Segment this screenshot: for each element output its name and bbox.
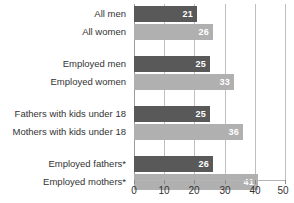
- x-axis-tick: [164, 180, 165, 184]
- category-label: All men: [94, 6, 126, 22]
- bar-employed-fathers: 26: [134, 156, 213, 172]
- plot-area: 21 26 25 33 25: [134, 4, 285, 180]
- x-axis-tick-label: 40: [249, 186, 260, 196]
- x-axis-tick-label: 10: [158, 186, 169, 196]
- category-label: Employed men: [63, 56, 126, 72]
- x-axis-tick-label: 50: [277, 186, 288, 196]
- x-axis-tick: [134, 180, 135, 184]
- bar-fathers-with-kids-under-18: 25: [134, 106, 210, 122]
- bar-value-label: 25: [196, 110, 206, 119]
- category-label: Employed mothers*: [43, 174, 126, 190]
- bar-rows: 21 26 25 33 25: [134, 4, 285, 176]
- gridline-50: [285, 4, 286, 180]
- bar-value-label: 26: [199, 160, 209, 169]
- x-axis-line: [134, 180, 285, 181]
- category-axis-labels: All men All women Employed men Employed …: [0, 4, 130, 180]
- bar-value-label: 36: [229, 128, 239, 137]
- bar-value-label: 26: [199, 28, 209, 37]
- bar-value-label: 21: [183, 10, 193, 19]
- bar-value-label: 25: [196, 60, 206, 69]
- bar-value-label: 33: [220, 78, 230, 87]
- category-label: All women: [82, 24, 126, 40]
- x-axis-tick-label: 0: [131, 186, 137, 196]
- x-axis-tick: [194, 180, 195, 184]
- bar-mothers-with-kids-under-18: 36: [134, 124, 243, 140]
- x-axis-tick: [285, 180, 286, 184]
- x-axis-tick-label: 30: [219, 186, 230, 196]
- bar-all-men: 21: [134, 6, 197, 22]
- bar-employed-men: 25: [134, 56, 210, 72]
- category-label: Fathers with kids under 18: [15, 106, 126, 122]
- category-label: Mothers with kids under 18: [12, 124, 126, 140]
- x-axis-tick: [255, 180, 256, 184]
- category-label: Employed women: [50, 74, 126, 90]
- x-axis-tick: [225, 180, 226, 184]
- bar-all-women: 26: [134, 24, 213, 40]
- category-label: Employed fathers*: [48, 156, 126, 172]
- bar-chart: All men All women Employed men Employed …: [0, 0, 294, 203]
- x-axis-tick-label: 20: [188, 186, 199, 196]
- bar-employed-women: 33: [134, 74, 234, 90]
